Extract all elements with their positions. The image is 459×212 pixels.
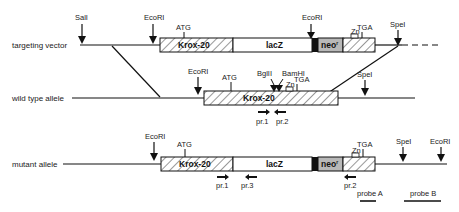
primer-left-arrow-icon bbox=[274, 109, 286, 115]
zn-label: Zn bbox=[351, 27, 360, 36]
krox20-targeting-diagram: targeting vector SalI EcoRI ATG Krox-20 … bbox=[0, 0, 459, 212]
site-ecori-label: EcoRI bbox=[144, 13, 164, 22]
krox20-label: Krox-20 bbox=[178, 40, 210, 50]
primer-3-label: pr.3 bbox=[241, 181, 254, 190]
down-arrow-icon bbox=[194, 87, 202, 95]
zn-label: Zn bbox=[286, 80, 295, 89]
zn-label: Zn bbox=[352, 146, 361, 155]
down-arrow-icon bbox=[437, 154, 445, 162]
primer-2-label: pr.2 bbox=[276, 117, 289, 126]
krox20-3prime bbox=[343, 38, 375, 52]
targeting-vector: targeting vector SalI EcoRI ATG Krox-20 … bbox=[12, 13, 442, 52]
crossover-left bbox=[112, 46, 160, 97]
site-ecori-label: EcoRI bbox=[145, 132, 165, 141]
site-spei-label: SpeI bbox=[357, 70, 372, 79]
site-spei-label: SpeI bbox=[390, 20, 405, 29]
primer-left-arrow-icon bbox=[245, 174, 257, 180]
row-label-mutant: mutant allele bbox=[12, 160, 58, 169]
mutant-allele: mutant allele EcoRI ATG Krox-20 lacZ neo… bbox=[12, 132, 450, 201]
black-bar bbox=[312, 38, 318, 52]
site-sali-label: SalI bbox=[75, 13, 88, 22]
krox20-3prime bbox=[343, 157, 375, 171]
primer-2-label: pr.2 bbox=[344, 181, 357, 190]
site-ecori-label: EcoRI bbox=[302, 13, 322, 22]
primer-right-arrow-icon bbox=[258, 109, 270, 115]
probe-a-label: probe A bbox=[357, 189, 383, 198]
site-ecori-label: EcoRI bbox=[430, 137, 450, 146]
down-arrow-icon bbox=[78, 36, 86, 44]
black-bar bbox=[312, 157, 318, 171]
primer-1-label: pr.1 bbox=[256, 117, 269, 126]
site-ecori-label: EcoRI bbox=[188, 67, 208, 76]
neo-label: neor bbox=[321, 159, 338, 169]
krox20-label: Krox-20 bbox=[243, 93, 275, 103]
atg-label: ATG bbox=[222, 73, 237, 82]
krox20-label: Krox-20 bbox=[179, 159, 211, 169]
site-spei-label: SpeI bbox=[396, 137, 411, 146]
neo-label: neor bbox=[321, 40, 338, 50]
down-arrow-icon bbox=[150, 153, 158, 161]
primer-1-label: pr.1 bbox=[216, 181, 229, 190]
tga-label: TGA bbox=[294, 75, 309, 84]
probe-b-label: probe B bbox=[410, 189, 436, 198]
primer-left-arrow-icon bbox=[344, 174, 356, 180]
lacz-label: lacZ bbox=[266, 159, 283, 169]
site-bglii-label: BglII bbox=[257, 69, 272, 78]
row-label-wild-type: wild type allele bbox=[11, 94, 65, 103]
primer-right-arrow-icon bbox=[217, 174, 229, 180]
atg-label: ATG bbox=[177, 140, 192, 149]
down-arrow-icon bbox=[399, 154, 407, 162]
atg-label: ATG bbox=[176, 23, 191, 32]
lacz-label: lacZ bbox=[266, 40, 283, 50]
down-arrow-icon bbox=[149, 36, 157, 44]
down-arrow-icon bbox=[361, 88, 369, 96]
row-label-targeting-vector: targeting vector bbox=[12, 41, 67, 50]
